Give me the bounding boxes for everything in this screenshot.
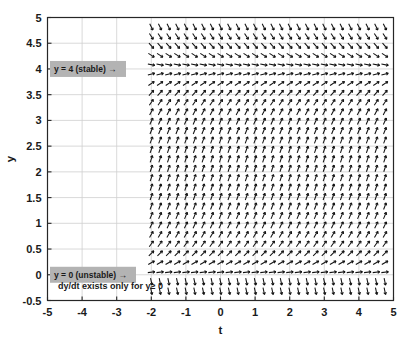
y-tick-label: 2 <box>35 166 41 178</box>
x-tick-label: 3 <box>321 306 327 318</box>
y-tick-label: 0.5 <box>26 243 41 255</box>
y-tick-labels: 54.543.532.521.510.50-0.5 <box>23 12 43 307</box>
x-tick-label: -4 <box>77 306 88 318</box>
stable-equilibrium-label: y = 4 (stable) → <box>54 64 117 74</box>
stable-equilibrium-annotation: y = 4 (stable) → <box>50 61 126 77</box>
x-tick-labels: -5-4-3-2-1012345 <box>43 306 397 318</box>
y-tick-label: 1 <box>35 217 41 229</box>
direction-field-plot: 54.543.532.521.510.50-0.5-5-4-3-2-101234… <box>0 0 409 342</box>
y-tick-label: 1.5 <box>26 192 41 204</box>
x-tick-label: 2 <box>287 306 293 318</box>
x-tick-label: -3 <box>112 306 122 318</box>
x-tick-label: 0 <box>217 306 223 318</box>
y-tick-label: 2.5 <box>26 140 41 152</box>
y-tick-label: 0 <box>35 269 41 281</box>
y-tick-label: -0.5 <box>23 295 42 307</box>
x-tick-label: -5 <box>43 306 53 318</box>
y-tick-label: 3.5 <box>26 89 41 101</box>
x-tick-label: -1 <box>181 306 191 318</box>
y-axis-title: y <box>4 155 16 162</box>
x-tick-label: 5 <box>390 306 396 318</box>
y-tick-label: 4.5 <box>26 37 41 49</box>
x-tick-label: 1 <box>252 306 258 318</box>
direction-field-figure: 54.543.532.521.510.50-0.5-5-4-3-2-101234… <box>0 0 409 342</box>
y-tick-label: 5 <box>35 12 41 24</box>
unstable-equilibrium-label: y = 0 (unstable) → <box>54 270 127 280</box>
x-tick-label: -2 <box>146 306 156 318</box>
y-tick-label: 3 <box>35 114 41 126</box>
domain-note: dy/dt exists only for y≥ 0 <box>58 281 163 291</box>
y-tick-label: 4 <box>35 63 42 75</box>
x-tick-label: 4 <box>356 306 363 318</box>
x-axis-title: t <box>219 324 223 336</box>
